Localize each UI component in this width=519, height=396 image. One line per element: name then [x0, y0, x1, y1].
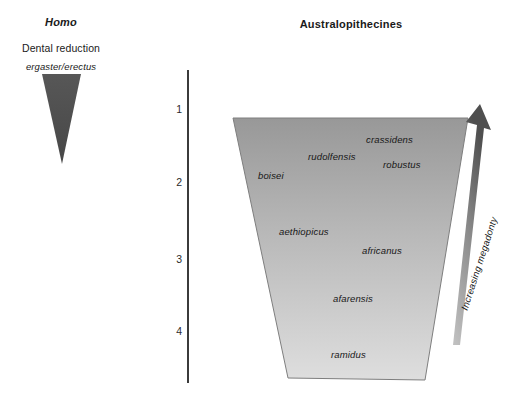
species-label-ramidus: ramidus: [331, 349, 366, 360]
species-label-africanus: africanus: [362, 245, 402, 256]
species-label-afarensis: afarensis: [333, 293, 373, 304]
time-axis-tick-2: 2: [160, 176, 182, 188]
time-axis-tick-4: 4: [160, 325, 182, 337]
homo-panel-title: Homo: [0, 16, 122, 28]
time-axis-tick-1: 1: [160, 103, 182, 115]
homo-species-label: ergaster/erectus: [0, 61, 122, 72]
homo-wedge: [38, 72, 86, 167]
homo-dental-reduction-caption: Dental reduction: [0, 42, 122, 54]
time-axis-tick-3: 3: [160, 253, 182, 265]
species-label-aethiopicus: aethiopicus: [279, 226, 329, 237]
homo-wedge-shape: [38, 72, 86, 167]
time-axis-line: [187, 70, 189, 383]
species-label-boisei: boisei: [258, 170, 284, 181]
species-label-robustus: robustus: [383, 159, 421, 170]
australopithecines-panel-title: Australopithecines: [236, 18, 466, 30]
species-label-crassidens: crassidens: [366, 134, 413, 145]
figure-canvas: Homo Dental reduction ergaster/erectus 1…: [0, 0, 519, 396]
species-label-rudolfensis: rudolfensis: [308, 151, 356, 162]
